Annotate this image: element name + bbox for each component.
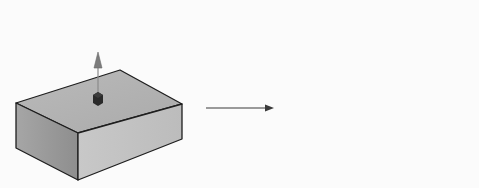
arrow-right-icon: [206, 105, 274, 112]
before-block: [16, 70, 182, 180]
diagram-svg: [0, 0, 479, 188]
diagram-canvas: Extrude boss: block with sketch point be…: [0, 0, 479, 188]
